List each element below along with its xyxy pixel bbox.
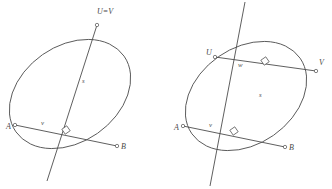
right-right-angle-mark-lower (230, 127, 238, 135)
right-label-b: B (289, 143, 294, 152)
right-label-v-lower: v (209, 121, 213, 128)
right-ellipse-outline (164, 19, 327, 173)
geometry-figure: U=V s A v B U w V s A v B (0, 0, 332, 189)
right-axis-s (210, 2, 245, 186)
right-point-v (314, 69, 317, 72)
left-label-v: v (41, 119, 45, 126)
figure-container: U=V s A v B U w V s A v B (0, 0, 332, 189)
right-label-w: w (238, 61, 243, 68)
left-point-a (13, 123, 16, 126)
left-label-uv: U=V (97, 7, 114, 16)
left-diagram: U=V s A v B (0, 7, 152, 181)
right-label-u: U (206, 48, 213, 57)
left-label-s: s (82, 77, 85, 84)
left-axis-s (47, 25, 97, 181)
right-label-a: A (173, 123, 179, 132)
left-point-uv (95, 23, 98, 26)
right-diagram: U w V s A v B (164, 2, 327, 186)
right-point-a (181, 124, 184, 127)
right-point-u (213, 55, 216, 58)
right-point-b (283, 145, 286, 148)
left-point-b (115, 144, 118, 147)
left-ellipse-outline (0, 17, 152, 171)
left-right-angle-mark (62, 126, 70, 134)
left-label-a: A (5, 122, 11, 131)
left-label-b: B (121, 142, 126, 151)
right-label-s: s (259, 91, 262, 98)
right-label-v: V (319, 58, 325, 67)
